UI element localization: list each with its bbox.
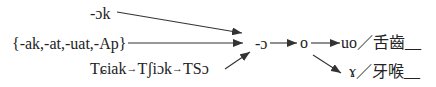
sound-change-diagram: -ɔk {-ak,-at,-uat,-Ap} Tɕiak→Tʃiɔk→TSɔ -…	[0, 0, 436, 87]
edge-ok-to-hub	[117, 12, 242, 33]
edge-chain-to-hub	[225, 52, 250, 69]
chain-step-2: Tʃiɔk	[137, 60, 172, 77]
outcome-environment: 舌齒	[373, 34, 405, 51]
outcome-uo: uo／舌齒__	[341, 35, 421, 51]
source-ok: -ɔk	[90, 6, 110, 22]
mid-node: o	[300, 35, 308, 51]
hub-node: -ɔ	[255, 36, 267, 52]
outcome-environment: 牙喉	[372, 63, 404, 80]
chain-step-3: TSɔ	[183, 60, 209, 77]
chain-step-1: Tɕiak	[90, 60, 126, 77]
source-chain: Tɕiak→Tʃiɔk→TSɔ	[90, 61, 209, 78]
outcome-separator: ／	[357, 34, 373, 51]
source-group: {-ak,-at,-uat,-Ap}	[12, 36, 126, 52]
outcome-reflex: uo	[341, 34, 357, 51]
edge-mid-to-gamma	[313, 55, 341, 73]
outcome-gamma: ɤ／牙喉__	[349, 64, 420, 80]
chain-arrow-icon: →	[172, 60, 183, 76]
outcome-separator: ／	[356, 63, 372, 80]
outcome-blank: __	[404, 63, 420, 80]
outcome-blank: __	[405, 34, 421, 51]
chain-arrow-icon: →	[126, 60, 137, 76]
